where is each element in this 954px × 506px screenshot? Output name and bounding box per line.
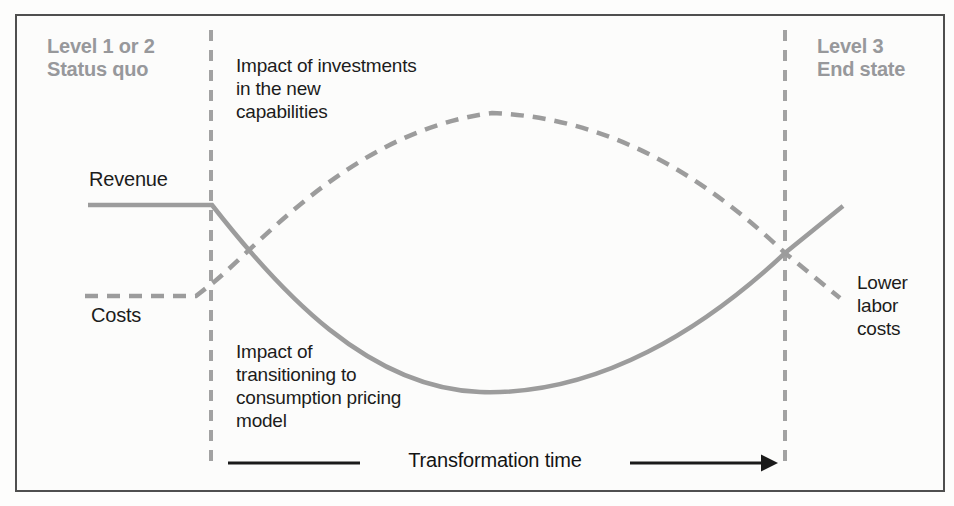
phase-label-status-quo: Level 1 or 2 Status quo — [47, 35, 155, 81]
transformation-jcurve-figure: Level 1 or 2 Status quo Level 3 End stat… — [0, 0, 954, 506]
annotation-transition: Impact of transitioning to consumption p… — [236, 340, 401, 432]
annotation-investments: Impact of investments in the new capabil… — [236, 54, 417, 123]
annotation-lower-labor-costs: Lower labor costs — [857, 271, 908, 340]
timeline-arrowhead-icon — [761, 455, 778, 472]
transformation-time-axis-label: Transformation time — [368, 449, 622, 472]
revenue-series-label: Revenue — [89, 168, 168, 191]
phase-label-end-state: Level 3 End state — [817, 35, 905, 81]
revenue-curve — [88, 205, 843, 392]
costs-series-label: Costs — [91, 304, 141, 327]
